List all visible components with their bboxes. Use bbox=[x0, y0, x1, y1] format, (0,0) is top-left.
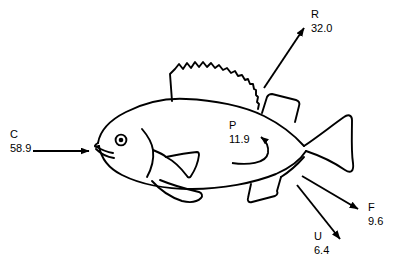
fish-drawing bbox=[0, 0, 395, 270]
flow-symbol-respiration: R bbox=[311, 8, 332, 22]
lateral-line bbox=[281, 157, 304, 177]
flow-label-respiration: R 32.0 bbox=[311, 8, 332, 36]
flow-value-respiration: 32.0 bbox=[311, 22, 332, 36]
flow-symbol-feces: F bbox=[368, 201, 383, 215]
flow-symbol-excretion: U bbox=[314, 230, 329, 244]
pectoral-fin bbox=[166, 152, 199, 178]
gill-cover-inner bbox=[153, 150, 166, 157]
gill-cover bbox=[142, 129, 153, 177]
flow-value-excretion: 6.4 bbox=[314, 244, 329, 258]
flow-value-consumption: 58.9 bbox=[10, 142, 31, 156]
eye-pupil bbox=[119, 138, 124, 143]
fish-energy-budget-diagram: C 58.9 R 32.0 P 11.9 F 9.6 U 6.4 bbox=[0, 0, 395, 270]
flow-label-excretion: U 6.4 bbox=[314, 230, 329, 258]
flow-label-feces: F 9.6 bbox=[368, 201, 383, 229]
flow-symbol-consumption: C bbox=[10, 128, 31, 142]
flow-value-feces: 9.6 bbox=[368, 215, 383, 229]
caudal-fin bbox=[304, 115, 353, 171]
body-outline-lower bbox=[99, 146, 306, 189]
flow-label-consumption: C 58.9 bbox=[10, 128, 31, 156]
flow-value-production: 11.9 bbox=[229, 133, 250, 147]
flow-label-production: P 11.9 bbox=[229, 119, 250, 147]
pelvic-fin bbox=[152, 180, 202, 202]
arrow-respiration bbox=[264, 28, 304, 88]
arrow-feces bbox=[302, 176, 358, 209]
flow-symbol-production: P bbox=[229, 119, 250, 133]
body-outline-upper bbox=[98, 99, 304, 146]
